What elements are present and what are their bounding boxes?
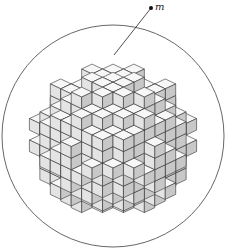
label-pointer-line <box>114 8 151 55</box>
label-m: m <box>155 1 164 12</box>
sphere-cube-diagram: m <box>0 0 226 248</box>
diagram-canvas <box>0 0 226 248</box>
label-dot-icon <box>149 6 153 10</box>
